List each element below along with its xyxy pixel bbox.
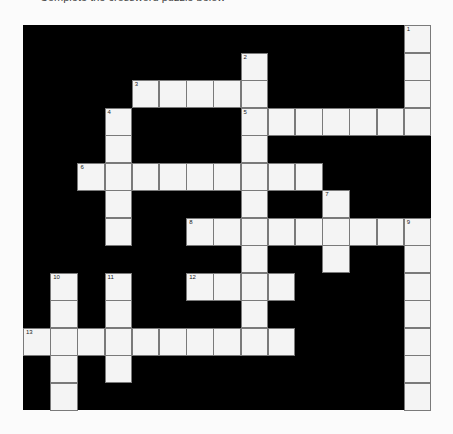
clue-number: 10 (53, 274, 60, 281)
crossword-cell[interactable] (132, 328, 160, 356)
crossword-cell[interactable] (213, 273, 241, 301)
crossword-cell[interactable]: 13 (23, 328, 51, 356)
crossword-cell[interactable] (105, 355, 133, 383)
crossword-cell[interactable] (377, 108, 405, 136)
crossword-cell[interactable] (241, 273, 269, 301)
clue-number: 6 (80, 164, 83, 171)
crossword-cell[interactable] (213, 218, 241, 246)
crossword-cell[interactable] (105, 328, 133, 356)
crossword-cell[interactable] (349, 108, 377, 136)
crossword-cell[interactable] (186, 80, 214, 108)
crossword-cell[interactable] (404, 80, 432, 108)
crossword-cell[interactable] (404, 383, 432, 411)
crossword-cell[interactable]: 11 (105, 273, 133, 301)
crossword-cell[interactable] (186, 328, 214, 356)
crossword-cell[interactable]: 9 (404, 218, 432, 246)
crossword-cell[interactable] (322, 218, 350, 246)
crossword-cell[interactable] (105, 190, 133, 218)
clue-number: 1 (407, 26, 410, 33)
crossword-cell[interactable] (159, 163, 187, 191)
crossword-cell[interactable] (241, 328, 269, 356)
crossword-cell[interactable]: 5 (241, 108, 269, 136)
crossword-cell[interactable] (295, 218, 323, 246)
crossword-cell[interactable] (213, 163, 241, 191)
crossword-cell[interactable] (268, 108, 296, 136)
crossword-cell[interactable] (50, 300, 78, 328)
crossword-cell[interactable] (268, 273, 296, 301)
clue-number: 3 (135, 81, 138, 88)
crossword-grid: 12534678910111213 (23, 25, 431, 410)
crossword-cell[interactable] (322, 108, 350, 136)
crossword-cell[interactable] (132, 163, 160, 191)
crossword-cell[interactable] (241, 135, 269, 163)
clue-number: 4 (108, 109, 111, 116)
crossword-cell[interactable] (159, 80, 187, 108)
crossword-cell[interactable]: 10 (50, 273, 78, 301)
clue-number: 13 (26, 329, 33, 336)
crossword-cell[interactable]: 6 (77, 163, 105, 191)
crossword-cell[interactable] (241, 245, 269, 273)
crossword-cell[interactable]: 8 (186, 218, 214, 246)
crossword-cell[interactable]: 2 (241, 53, 269, 81)
crossword-cell[interactable] (50, 355, 78, 383)
crossword-cell[interactable] (186, 163, 214, 191)
crossword-cell[interactable] (268, 163, 296, 191)
crossword-cell[interactable] (295, 163, 323, 191)
crossword-cell[interactable] (213, 80, 241, 108)
crossword-cell[interactable] (241, 218, 269, 246)
crossword-cell[interactable] (404, 328, 432, 356)
crossword-cell[interactable] (404, 53, 432, 81)
crossword-cell[interactable] (268, 328, 296, 356)
crossword-cell[interactable] (404, 300, 432, 328)
crossword-cell[interactable] (349, 218, 377, 246)
clue-number: 11 (108, 274, 114, 281)
crossword-cell[interactable]: 7 (322, 190, 350, 218)
crossword-cell[interactable] (105, 163, 133, 191)
crossword-cell[interactable] (404, 245, 432, 273)
crossword-cell[interactable] (50, 383, 78, 411)
crossword-cell[interactable] (322, 245, 350, 273)
crossword-cell[interactable] (159, 328, 187, 356)
crossword-cell[interactable] (241, 163, 269, 191)
crossword-cell[interactable] (213, 328, 241, 356)
crossword-cell[interactable] (295, 108, 323, 136)
clue-number: 9 (407, 219, 410, 226)
crossword-cell[interactable] (105, 300, 133, 328)
crossword-cell[interactable] (77, 328, 105, 356)
crossword-cell[interactable] (241, 300, 269, 328)
clue-number: 7 (325, 191, 328, 198)
instructions-text: Complete the crossword puzzle below (40, 0, 225, 3)
crossword-cell[interactable]: 1 (404, 25, 432, 53)
clue-number: 8 (189, 219, 192, 226)
crossword-cell[interactable]: 12 (186, 273, 214, 301)
crossword-cell[interactable] (404, 355, 432, 383)
crossword-cell[interactable] (241, 80, 269, 108)
crossword-cell[interactable] (404, 273, 432, 301)
crossword-cell[interactable] (377, 218, 405, 246)
crossword-cell[interactable] (404, 108, 432, 136)
clue-number: 5 (244, 109, 247, 116)
clue-number: 12 (189, 274, 196, 281)
crossword-cell[interactable]: 4 (105, 108, 133, 136)
crossword-cell[interactable] (105, 218, 133, 246)
crossword-cell[interactable] (268, 218, 296, 246)
crossword-cell[interactable] (105, 135, 133, 163)
crossword-cell[interactable]: 3 (132, 80, 160, 108)
clue-number: 2 (244, 54, 247, 61)
crossword-cell[interactable] (50, 328, 78, 356)
crossword-cell[interactable] (241, 190, 269, 218)
